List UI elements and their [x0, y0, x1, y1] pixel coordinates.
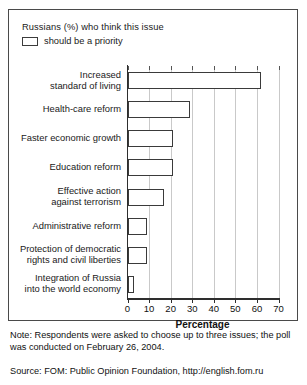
category-label: Administrative reform [0, 220, 121, 231]
x-tick-label-70: 70 [273, 303, 284, 314]
footer-source: Source: FOM: Public Opinion Foundation, … [10, 366, 300, 378]
x-tick-label-60: 60 [252, 303, 263, 314]
gridline-30 [192, 66, 193, 299]
category-label: Health-care reform [0, 103, 121, 114]
x-tick-top-20 [171, 66, 172, 70]
gridline-60 [257, 66, 258, 299]
category-label: Education reform [0, 161, 121, 172]
y-axis-category-labels: Increased standard of livingHealth-care … [0, 66, 125, 299]
legend-title: Russians (%) who think this issue [22, 21, 252, 33]
x-tick-top-60 [257, 66, 258, 70]
gridline-70 [279, 66, 280, 299]
gridline-40 [214, 66, 215, 299]
x-tick-label-10: 10 [144, 303, 155, 314]
x-axis-title: Percentage [176, 319, 230, 330]
bar [128, 276, 134, 293]
bar [128, 189, 165, 206]
x-tick-top-70 [279, 66, 280, 70]
x-tick-label-0: 0 [125, 303, 130, 314]
x-tick-label-50: 50 [230, 303, 241, 314]
legend-entry-label: should be a priority [44, 36, 123, 46]
bar [128, 218, 147, 235]
category-label: Effective action against terrorism [0, 185, 121, 207]
gridline-50 [235, 66, 236, 299]
x-tick-label-40: 40 [208, 303, 219, 314]
bar [128, 130, 173, 147]
category-label: Integration of Russia into the world eco… [0, 272, 121, 294]
chart-figure: Russians (%) who think this issue should… [0, 0, 307, 385]
x-tick-top-30 [192, 66, 193, 70]
x-tick-top-40 [214, 66, 215, 70]
bar [128, 247, 147, 264]
category-label: Increased standard of living [0, 69, 121, 91]
plot-area: 010203040506070 Percentage [128, 66, 279, 299]
category-label: Faster economic growth [0, 132, 121, 143]
x-tick-top-50 [235, 66, 236, 70]
x-tick-label-20: 20 [165, 303, 176, 314]
legend-swatch-icon [22, 37, 38, 46]
x-tick-top-10 [149, 66, 150, 70]
bar [128, 159, 173, 176]
category-label: Protection of democratic rights and civi… [0, 243, 121, 265]
footer-note: Note: Respondents were asked to choose u… [10, 330, 298, 353]
bar [128, 72, 262, 89]
bar [128, 101, 191, 118]
legend-entry-priority: should be a priority [22, 36, 252, 46]
x-tick-label-30: 30 [187, 303, 198, 314]
x-tick-top-0 [128, 66, 129, 70]
chart-legend: Russians (%) who think this issue should… [22, 21, 252, 46]
y-axis-line [127, 65, 129, 300]
